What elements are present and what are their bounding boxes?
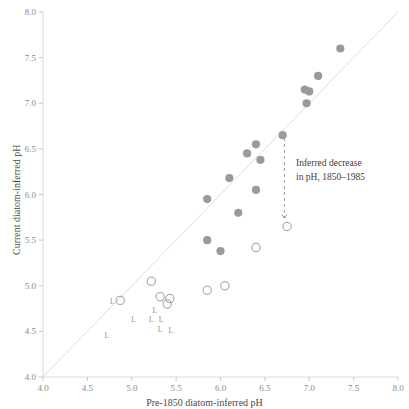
annotation-line-1: Inferred decrease bbox=[296, 158, 362, 168]
x-axis-title: Pre-1850 diatom-inferred pH bbox=[0, 397, 409, 408]
data-point-filled bbox=[216, 247, 224, 255]
data-point-letter-l: L bbox=[158, 326, 163, 334]
y-tick-label: 7.5 bbox=[10, 53, 36, 63]
data-point-filled bbox=[234, 209, 242, 217]
y-tick-label: 8.0 bbox=[10, 7, 36, 17]
data-point-filled bbox=[243, 149, 251, 157]
data-point-letter-l: L bbox=[149, 316, 154, 324]
data-point-filled bbox=[203, 236, 211, 244]
data-point-letter-l: L bbox=[131, 316, 136, 324]
x-tick-label: 4.0 bbox=[37, 383, 48, 393]
one-to-one-line bbox=[43, 12, 398, 377]
y-axis-title: Current diatom-inferred pH bbox=[11, 144, 22, 255]
data-point-letter-l: L bbox=[159, 317, 164, 325]
x-tick-label: 6.5 bbox=[259, 383, 270, 393]
data-point-letter-l: L bbox=[110, 298, 115, 306]
data-point-open bbox=[156, 293, 164, 301]
data-point-open bbox=[252, 243, 260, 251]
x-tick-label: 5.0 bbox=[126, 383, 137, 393]
y-tick-label: 4.0 bbox=[10, 372, 36, 382]
x-tick-label: 8.0 bbox=[392, 383, 403, 393]
data-point-filled bbox=[336, 44, 344, 52]
data-point-open bbox=[147, 277, 155, 285]
annotation-arrow bbox=[282, 138, 287, 218]
data-point-filled bbox=[252, 186, 260, 194]
x-tick-label: 6.0 bbox=[215, 383, 226, 393]
data-point-filled bbox=[302, 99, 310, 107]
data-point-letter-l: L bbox=[105, 332, 110, 340]
x-tick-label: 4.5 bbox=[82, 383, 93, 393]
data-point-filled bbox=[256, 156, 264, 164]
y-tick-label: 4.5 bbox=[10, 326, 36, 336]
one-to-one-reference-line bbox=[43, 12, 398, 377]
data-point-filled bbox=[225, 174, 233, 182]
data-point-filled bbox=[279, 131, 287, 139]
x-tick-label: 5.5 bbox=[171, 383, 182, 393]
data-point-open bbox=[283, 222, 291, 230]
data-point-open bbox=[221, 282, 229, 290]
x-tick-label: 7.5 bbox=[348, 383, 359, 393]
annotation-line-2: in pH, 1850–1985 bbox=[296, 172, 365, 182]
data-point-filled bbox=[305, 87, 313, 95]
y-tick-label: 5.0 bbox=[10, 281, 36, 291]
x-tick-label: 7.0 bbox=[304, 383, 315, 393]
y-tick-label: 7.0 bbox=[10, 98, 36, 108]
data-point-letter-l: L bbox=[169, 328, 174, 336]
data-point-filled bbox=[314, 72, 322, 80]
plot-canvas bbox=[0, 0, 409, 409]
data-point-filled bbox=[252, 140, 260, 148]
data-point-filled bbox=[203, 195, 211, 203]
data-point-open bbox=[203, 286, 211, 294]
scatter-plot-figure: 4.04.55.05.56.06.57.07.58.0 4.04.55.05.5… bbox=[0, 0, 409, 409]
